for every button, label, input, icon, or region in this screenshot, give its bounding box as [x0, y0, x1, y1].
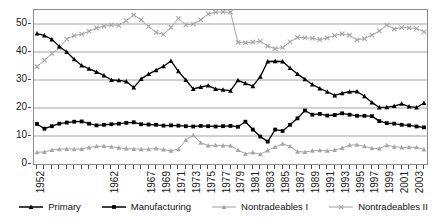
data-point-marker: [112, 205, 116, 209]
data-point-marker: [258, 135, 262, 139]
data-point-marker: [266, 140, 270, 144]
x-tick-label: 2001: [400, 171, 410, 193]
data-point-marker: [72, 120, 76, 124]
data-point-marker: [57, 122, 61, 126]
x-tick-label: 1973: [192, 171, 202, 193]
legend-item-manufacturing[interactable]: Manufacturing: [101, 202, 191, 212]
x-tick-mark: [125, 165, 126, 169]
x-tick-label: 1983: [266, 171, 276, 193]
y-tick-label: 50: [16, 18, 27, 28]
x-tick-mark: [296, 165, 297, 169]
data-point-marker: [422, 100, 427, 105]
data-point-marker: [176, 16, 180, 20]
data-point-marker: [35, 31, 40, 36]
data-point-marker: [422, 125, 426, 129]
data-point-marker: [280, 141, 285, 146]
x-tick-mark: [341, 165, 342, 169]
data-point-marker: [124, 121, 128, 125]
x-tick-mark: [259, 165, 260, 169]
data-point-marker: [80, 120, 84, 124]
data-point-marker: [384, 143, 389, 148]
y-tick-mark: [28, 135, 31, 136]
data-point-marker: [110, 122, 114, 126]
data-point-marker: [169, 123, 173, 127]
x-tick-label: 1975: [207, 171, 217, 193]
data-point-marker: [169, 58, 174, 63]
data-point-marker: [273, 128, 277, 132]
x-axis: 1952196219671969197119731975197719791981…: [33, 165, 428, 205]
x-tick-mark: [349, 165, 350, 169]
x-tick-mark: [304, 165, 305, 169]
x-tick-label: 1979: [236, 171, 246, 193]
data-point-marker: [236, 125, 240, 129]
legend-label: Primary: [48, 202, 81, 212]
x-tick-mark: [274, 165, 275, 169]
x-tick-label: 1989: [311, 171, 321, 193]
data-point-marker: [65, 37, 69, 41]
x-tick-mark: [110, 165, 111, 169]
x-tick-mark: [363, 165, 364, 169]
data-point-marker: [422, 30, 426, 34]
x-tick-mark: [51, 165, 52, 169]
x-tick-mark: [215, 165, 216, 169]
chart-container: 01020304050 1952196219671969197119731975…: [0, 0, 446, 224]
legend-item-nontradeables-i[interactable]: Nontradeables I: [211, 202, 308, 212]
data-point-marker: [333, 113, 337, 117]
data-point-marker: [117, 122, 121, 126]
x-tick-label: 1981: [251, 171, 261, 193]
x-tick-mark: [371, 165, 372, 169]
series-line: [37, 34, 424, 108]
data-point-marker: [415, 125, 419, 129]
x-tick-mark: [155, 165, 156, 169]
data-point-marker: [124, 18, 128, 22]
x-tick-mark: [408, 165, 409, 169]
data-point-marker: [199, 124, 203, 128]
x-tick-mark: [170, 165, 171, 169]
x-tick-label: 1993: [341, 171, 351, 193]
data-point-marker: [318, 112, 322, 116]
data-point-marker: [258, 74, 263, 79]
y-tick-label: 40: [16, 46, 27, 56]
legend-item-nontradeables-ii[interactable]: Nontradeables II: [328, 202, 428, 212]
x-tick-mark: [118, 165, 119, 169]
x-tick-mark: [244, 165, 245, 169]
data-point-marker: [50, 124, 54, 128]
x-tick-mark: [66, 165, 67, 169]
data-point-marker: [206, 124, 210, 128]
legend-marker-square-icon: [101, 202, 127, 212]
data-point-marker: [191, 133, 196, 138]
data-point-marker: [139, 18, 143, 22]
x-tick-label: 1991: [326, 171, 336, 193]
x-tick-mark: [423, 165, 424, 169]
legend-item-primary[interactable]: Primary: [18, 202, 81, 212]
series-nontradeables-ii: [35, 10, 426, 69]
data-point-marker: [377, 119, 381, 123]
x-tick-label: 1999: [385, 171, 395, 193]
x-tick-mark: [81, 165, 82, 169]
x-tick-mark: [289, 165, 290, 169]
x-tick-label: 1969: [162, 171, 172, 193]
legend-label: Manufacturing: [131, 202, 191, 212]
data-point-marker: [385, 121, 389, 125]
legend-marker-triangle-icon: [18, 202, 44, 212]
data-point-marker: [310, 113, 314, 117]
x-tick-mark: [96, 165, 97, 169]
x-tick-mark: [200, 165, 201, 169]
x-tick-label: 1985: [281, 171, 291, 193]
data-point-marker: [370, 114, 374, 118]
data-point-marker: [42, 58, 46, 62]
data-point-marker: [363, 114, 367, 118]
data-point-marker: [146, 24, 150, 28]
x-tick-mark: [103, 165, 104, 169]
data-point-marker: [296, 116, 300, 120]
data-point-marker: [184, 124, 188, 128]
x-tick-mark: [237, 165, 238, 169]
data-point-marker: [236, 148, 241, 153]
x-tick-mark: [282, 165, 283, 169]
x-tick-mark: [386, 165, 387, 169]
data-point-marker: [281, 129, 285, 133]
data-point-marker: [407, 123, 411, 127]
chart-plot-svg: [34, 10, 427, 164]
data-point-marker: [132, 13, 136, 17]
series-primary: [35, 31, 427, 109]
